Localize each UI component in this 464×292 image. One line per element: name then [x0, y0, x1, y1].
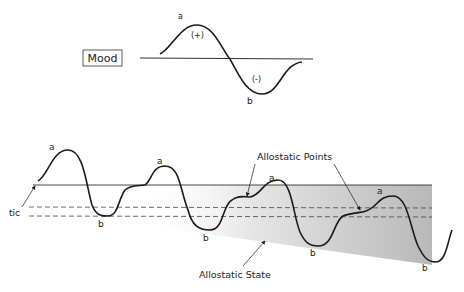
negative-label: (-) — [252, 75, 261, 84]
positive-label: (+) — [191, 31, 204, 40]
mood-label: Mood — [88, 52, 118, 65]
mood-baseline — [140, 58, 313, 59]
trough-label-2: b — [203, 233, 209, 243]
peak-label-3: a — [269, 173, 275, 183]
homeostatic-label: tic — [9, 208, 20, 218]
mood-peak-label: a — [178, 12, 183, 21]
trough-label-4: b — [422, 263, 428, 273]
mood-panel: Mood a (+) (-) b — [83, 12, 313, 106]
allostatic-state-arrow — [243, 241, 265, 266]
mood-trough-label: b — [247, 96, 253, 106]
mood-curve — [160, 25, 302, 94]
peak-label-4: a — [377, 186, 383, 196]
homeostatic-arrow — [22, 186, 35, 207]
peak-label-1: a — [49, 142, 55, 152]
allostatic-state-label: Allostatic State — [199, 269, 271, 280]
allostasis-panel: a a a a b b b b tic Allostatic Points Al… — [9, 142, 452, 280]
trough-label-3: b — [310, 248, 316, 258]
trough-label-1: b — [98, 219, 104, 229]
allostatic-points-label: Allostatic Points — [257, 151, 332, 162]
allostasis-diagram: Mood a (+) (-) b a a a a b b b b tic All… — [0, 0, 464, 292]
peak-label-2: a — [157, 156, 163, 166]
